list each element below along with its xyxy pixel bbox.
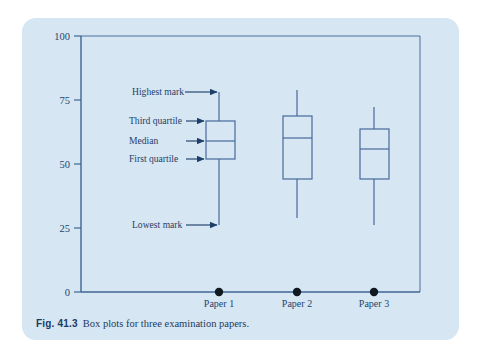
figure-caption-text: Box plots for three examination papers. bbox=[78, 318, 249, 329]
annotation-label-highest-mark: Highest mark bbox=[132, 86, 184, 97]
annotation-label-first-quartile: First quartile bbox=[129, 153, 178, 164]
plot-frame bbox=[81, 36, 420, 292]
x-axis-marker-paper-3 bbox=[370, 288, 378, 296]
box-plot-paper-2 bbox=[283, 90, 312, 218]
box-plot-paper-3 bbox=[360, 107, 389, 225]
box-paper-1 bbox=[206, 121, 235, 159]
box-paper-2 bbox=[283, 116, 312, 179]
x-axis: Paper 1 Paper 2 Paper 3 bbox=[81, 288, 420, 309]
annotation-third-quartile: Third quartile bbox=[129, 115, 204, 126]
x-axis-marker-paper-2 bbox=[293, 288, 301, 296]
y-tick-label-25: 25 bbox=[60, 223, 71, 234]
annotation-first-quartile: First quartile bbox=[129, 153, 204, 164]
y-tick-label-75: 75 bbox=[60, 95, 71, 106]
annotation-lowest-mark: Lowest mark bbox=[132, 219, 217, 230]
x-axis-marker-paper-1 bbox=[215, 288, 223, 296]
box-plot-chart: 100 75 50 25 0 Paper 1 Paper 2 Paper 3 bbox=[0, 0, 481, 355]
y-axis: 100 75 50 25 0 bbox=[54, 31, 81, 298]
annotation-median: Median bbox=[129, 135, 204, 146]
y-tick-label-100: 100 bbox=[54, 31, 70, 42]
figure-caption-number: Fig. 41.3 bbox=[36, 318, 78, 329]
x-category-label-paper-2: Paper 2 bbox=[282, 298, 312, 309]
x-category-label-paper-1: Paper 1 bbox=[204, 298, 234, 309]
figure-root: 100 75 50 25 0 Paper 1 Paper 2 Paper 3 bbox=[0, 0, 481, 355]
annotation-label-third-quartile: Third quartile bbox=[129, 115, 182, 126]
y-axis-ticks bbox=[74, 36, 81, 292]
annotation-label-lowest-mark: Lowest mark bbox=[132, 219, 183, 230]
y-tick-label-0: 0 bbox=[65, 287, 70, 298]
box-paper-3 bbox=[360, 129, 389, 179]
y-tick-label-50: 50 bbox=[60, 159, 71, 170]
x-category-label-paper-3: Paper 3 bbox=[359, 298, 389, 309]
figure-caption: Fig. 41.3Box plots for three examination… bbox=[36, 318, 436, 329]
annotation-highest-mark: Highest mark bbox=[132, 86, 217, 97]
annotation-label-median: Median bbox=[129, 135, 159, 146]
box-plot-paper-1 bbox=[206, 92, 235, 225]
